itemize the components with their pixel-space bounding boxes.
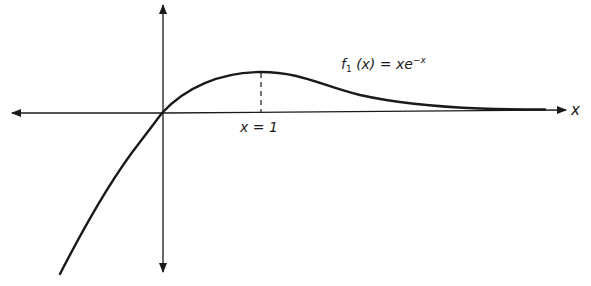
function-label: f1 (x) = xe−x xyxy=(341,55,426,74)
x-axis-label: x xyxy=(571,101,580,119)
peak-label: x = 1 xyxy=(240,119,278,135)
plot-graphics xyxy=(0,0,591,286)
x-axis-positive xyxy=(162,110,566,113)
function-curve xyxy=(60,72,545,274)
function-plot: f1 (x) = xe−x x = 1 x xyxy=(0,0,591,286)
